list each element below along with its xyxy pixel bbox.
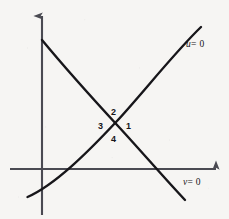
region-label-2: 2 <box>111 108 116 117</box>
v-equals-zero-text: = 0 <box>188 177 201 187</box>
v-nullcline-label: v= 0 <box>183 178 201 188</box>
u-nullcline-label: u= 0 <box>186 40 204 50</box>
phase-plane-figure: u= 0 v= 0 1 2 3 4 <box>0 0 229 219</box>
region-label-4: 4 <box>111 135 116 144</box>
region-label-3: 3 <box>98 122 103 131</box>
v-nullcline-curve <box>42 40 185 200</box>
region-label-1: 1 <box>126 122 131 131</box>
u-equals-zero-text: = 0 <box>191 39 204 49</box>
